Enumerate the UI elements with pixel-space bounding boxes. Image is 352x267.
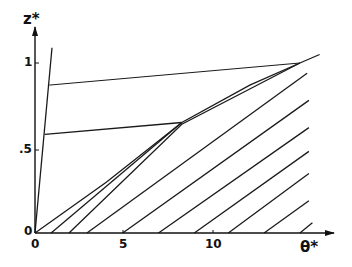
series-characteristic-9 bbox=[300, 223, 313, 233]
chart-canvas bbox=[0, 0, 352, 267]
series-characteristic-4 bbox=[123, 100, 309, 233]
x-axis-title: θ* bbox=[300, 238, 318, 256]
y-tick-label-05: .5 bbox=[19, 142, 32, 156]
series-envelope bbox=[35, 55, 320, 234]
y-axis-title: z* bbox=[23, 10, 40, 28]
y-tick-label-0: 0 bbox=[24, 224, 32, 238]
series-characteristic-2 bbox=[69, 63, 300, 233]
x-tick-label-0: 0 bbox=[31, 237, 39, 251]
series-steep-line bbox=[35, 48, 52, 233]
series-characteristic-7 bbox=[228, 174, 309, 234]
series-lower-horizontal bbox=[45, 123, 182, 135]
series-characteristic-8 bbox=[264, 201, 309, 233]
x-tick-label-10: 10 bbox=[205, 237, 222, 251]
x-tick-label-5: 5 bbox=[119, 237, 127, 251]
series-characteristic-3 bbox=[87, 73, 307, 233]
plot-lines bbox=[35, 48, 320, 233]
series-characteristic-6 bbox=[194, 151, 309, 233]
y-tick-label-1: 1 bbox=[24, 55, 32, 69]
